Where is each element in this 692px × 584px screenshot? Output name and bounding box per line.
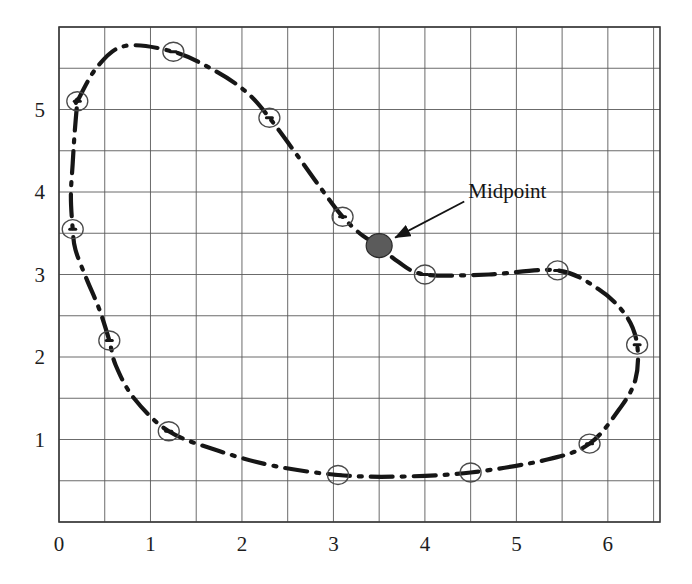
x-tick-label: 4 [420, 532, 431, 556]
node-marker [259, 108, 280, 127]
node-marker [547, 261, 568, 280]
y-tick-label: 4 [35, 180, 46, 204]
x-tick-label: 2 [237, 532, 248, 556]
node-marker [328, 465, 349, 484]
x-tick-label: 5 [511, 532, 522, 556]
y-tick-label: 1 [35, 428, 46, 452]
node-marker [67, 92, 88, 111]
midpoint-annotation-label: Midpoint [468, 179, 546, 203]
node-marker [99, 331, 120, 350]
node-marker [627, 335, 648, 354]
figure-canvas: Midpoint 0123456 12345 [0, 0, 692, 584]
node-marker [579, 434, 600, 453]
x-tick-label: 3 [328, 532, 339, 556]
midpoint-dot [366, 234, 392, 258]
curve-plot: Midpoint 0123456 12345 [0, 0, 692, 584]
midpoint-marker [366, 234, 392, 258]
node-marker [158, 422, 179, 441]
node-marker [163, 42, 184, 61]
y-tick-label: 5 [35, 98, 46, 122]
x-tick-label: 0 [54, 532, 65, 556]
x-tick-label: 6 [603, 532, 614, 556]
y-tick-label: 2 [35, 345, 46, 369]
y-tick-label: 3 [35, 263, 46, 287]
x-tick-label: 1 [145, 532, 156, 556]
node-marker [332, 207, 353, 226]
node-marker [62, 220, 83, 239]
node-marker [460, 463, 481, 482]
node-marker [414, 265, 435, 284]
plot-background [0, 0, 692, 584]
